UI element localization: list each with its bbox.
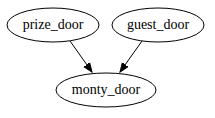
node-guest-door-label: guest_door <box>112 17 204 33</box>
node-prize-door-label: prize_door <box>7 17 99 33</box>
edge-prize-to-monty <box>70 41 92 72</box>
edge-guest-to-monty <box>120 41 142 72</box>
node-monty-door-label: monty_door <box>56 82 156 98</box>
graph-canvas: prize_door guest_door monty_door <box>0 0 215 118</box>
